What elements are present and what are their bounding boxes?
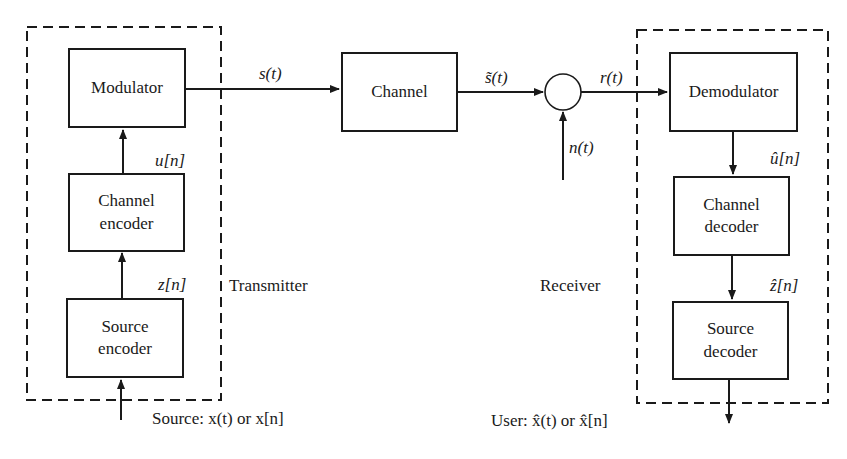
source-decoder-label: Source decoder [704,318,758,362]
channel-decoder-block: Channel decoder [673,176,790,256]
summing-node [545,74,581,110]
demodulator-block: Demodulator [669,52,798,132]
signal-z-hat-label: ẑ[n] [770,277,798,294]
signal-r-label: r(t) [600,69,623,86]
source-encoder-label: Source encoder [98,316,152,360]
channel-block: Channel [341,52,458,132]
source-encoder-block: Source encoder [66,298,184,378]
modulator-label: Modulator [91,77,163,99]
signal-u-hat-label: û[n] [770,150,800,167]
channel-label: Channel [371,81,428,103]
signal-s-tilde-label: s̃(t) [485,69,508,86]
source-decoder-block: Source decoder [672,301,789,380]
channel-encoder-block: Channel encoder [68,173,185,252]
demodulator-label: Demodulator [689,81,779,103]
receiver-label: Receiver [540,276,600,296]
channel-decoder-label: Channel decoder [703,194,760,238]
signal-z-label: z[n] [158,276,186,293]
signal-u-label: u[n] [155,152,185,169]
user-label: User: x̂(t) or x̂[n] [491,412,608,429]
transmitter-label: Transmitter [229,276,308,296]
source-label: Source: x(t) or x[n] [152,410,284,427]
signal-n-label: n(t) [569,139,594,156]
signal-s-label: s(t) [259,65,282,82]
modulator-block: Modulator [68,48,186,128]
channel-encoder-label: Channel encoder [98,190,155,234]
